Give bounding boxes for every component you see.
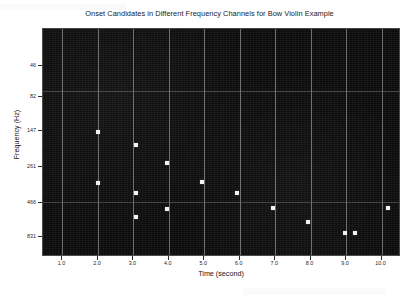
vertical-gridline-2.0 xyxy=(98,29,99,255)
vertical-gridline-8.0 xyxy=(311,29,312,255)
x-tick-mark-4.0 xyxy=(168,256,169,260)
y-axis-label: Frequency (Hz) xyxy=(12,85,21,185)
vertical-gridline-10.0 xyxy=(382,29,383,255)
plot-area[interactable] xyxy=(42,28,400,256)
onset-marker xyxy=(134,143,138,147)
onset-marker xyxy=(134,215,138,219)
onset-marker xyxy=(165,207,169,211)
x-tick-mark-3.0 xyxy=(132,256,133,260)
vertical-gridline-6.0 xyxy=(240,29,241,255)
onset-marker xyxy=(235,191,239,195)
x-axis-label: Time (second) xyxy=(42,269,400,278)
x-tick-label-3.0: 3.0 xyxy=(117,260,147,266)
y-tick-label-466: 466 xyxy=(2,199,36,205)
x-tick-label-6.0: 6.0 xyxy=(224,260,254,266)
x-tick-label-8.0: 8.0 xyxy=(295,260,325,266)
x-tick-mark-6.0 xyxy=(239,256,240,260)
x-tick-label-1.0: 1.0 xyxy=(46,260,76,266)
y-tick-mark-147 xyxy=(38,130,42,131)
onset-marker xyxy=(96,130,100,134)
onset-marker xyxy=(343,231,347,235)
x-tick-label-5.0: 5.0 xyxy=(188,260,218,266)
vertical-gridline-3.0 xyxy=(133,29,134,255)
x-tick-mark-1.0 xyxy=(61,256,62,260)
horizontal-gridline-1 xyxy=(43,202,399,203)
y-tick-label-46: 46 xyxy=(2,62,36,68)
horizontal-gridline-0 xyxy=(43,91,399,92)
y-tick-mark-831 xyxy=(38,236,42,237)
x-tick-mark-7.0 xyxy=(274,256,275,260)
vertical-gridline-5.0 xyxy=(204,29,205,255)
vertical-gridline-9.0 xyxy=(346,29,347,255)
vertical-gridline-4.0 xyxy=(169,29,170,255)
x-tick-label-10.0: 10.0 xyxy=(366,260,396,266)
figure-canvas: Onset Candidates in Different Frequency … xyxy=(0,0,419,299)
x-tick-label-4.0: 4.0 xyxy=(153,260,183,266)
x-tick-mark-8.0 xyxy=(310,256,311,260)
onset-marker xyxy=(306,220,310,224)
onset-marker xyxy=(165,161,169,165)
x-tick-mark-10.0 xyxy=(381,256,382,260)
x-tick-label-9.0: 9.0 xyxy=(330,260,360,266)
chart-title: Onset Candidates in Different Frequency … xyxy=(0,9,419,18)
y-tick-mark-261 xyxy=(38,166,42,167)
onset-marker xyxy=(353,231,357,235)
vertical-gridline-1.0 xyxy=(62,29,63,255)
x-tick-label-7.0: 7.0 xyxy=(259,260,289,266)
onset-marker xyxy=(271,206,275,210)
x-tick-mark-2.0 xyxy=(97,256,98,260)
onset-marker xyxy=(386,206,390,210)
onset-marker xyxy=(96,181,100,185)
y-tick-mark-46 xyxy=(38,65,42,66)
y-tick-mark-82 xyxy=(38,96,42,97)
x-tick-label-2.0: 2.0 xyxy=(82,260,112,266)
y-tick-label-831: 831 xyxy=(2,233,36,239)
onset-marker xyxy=(134,191,138,195)
x-tick-mark-9.0 xyxy=(345,256,346,260)
y-tick-mark-466 xyxy=(38,202,42,203)
x-tick-mark-5.0 xyxy=(203,256,204,260)
vertical-gridline-7.0 xyxy=(275,29,276,255)
onset-marker xyxy=(200,180,204,184)
